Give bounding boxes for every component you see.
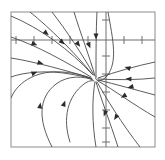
phase-portrait-canvas (0, 0, 165, 160)
phase-portrait-figure: Phase plane diagram with a horizontal an… (0, 0, 165, 160)
